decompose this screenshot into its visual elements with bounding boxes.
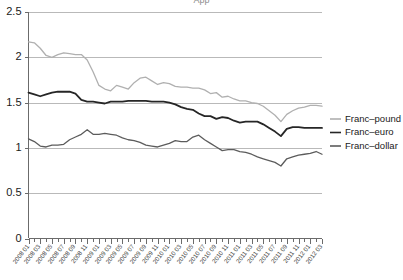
gridlines-group	[29, 13, 323, 194]
y-axis-tick-label: 1	[15, 141, 21, 153]
cropped-title-text: App	[0, 0, 403, 6]
line-chart: 00.511.522.5 2008 012008 032008 052008 0…	[0, 0, 403, 280]
series-line	[29, 92, 323, 136]
series-line	[29, 130, 323, 166]
y-axis-tick-label: 0.5	[6, 186, 21, 198]
y-axis-tick-label: 2	[15, 50, 21, 62]
series-line	[29, 42, 323, 122]
y-axis-tick-label: 0	[15, 232, 21, 244]
y-axis-tick-label: 1.5	[6, 96, 21, 108]
chart-container: App 00.511.522.5 2008 012008 032008 0520…	[0, 0, 403, 280]
y-axis-tick-label: 2.5	[6, 5, 21, 17]
y-axis-ticks-group	[25, 13, 29, 240]
legend-label: Franc–pound	[345, 113, 401, 124]
x-axis-labels-group: 2008 012008 032008 052008 072008 092008 …	[11, 242, 324, 264]
legend-label: Franc–dollar	[345, 140, 398, 151]
legend-label: Franc–euro	[345, 126, 394, 137]
y-axis-labels-group: 00.511.522.5	[6, 5, 21, 244]
chart-legend: Franc–poundFranc–euroFranc–dollar	[330, 113, 401, 151]
cropped-title-label: App	[193, 0, 209, 5]
